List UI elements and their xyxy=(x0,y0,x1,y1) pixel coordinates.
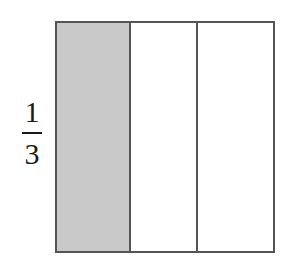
fraction-label: 1 3 xyxy=(18,96,46,170)
shaded-part xyxy=(57,23,131,251)
fraction-numerator: 1 xyxy=(18,96,46,128)
fraction-bar xyxy=(22,132,42,134)
fraction-model-rectangle xyxy=(55,21,275,253)
fraction-denominator: 3 xyxy=(18,138,46,170)
unshaded-part xyxy=(131,23,198,251)
unshaded-part xyxy=(198,23,273,251)
